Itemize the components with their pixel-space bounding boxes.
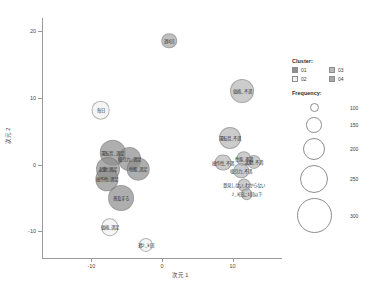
scatter-plot-area: 次元 2 次元 1 20100-10-10010 週1回価格_不満毎日運転音_不… <box>0 0 285 291</box>
frequency-size-label: 250 <box>350 176 358 182</box>
frequency-size-circle <box>310 103 319 112</box>
cluster-legend-title: Cluster: <box>292 58 373 64</box>
data-point-label: 性能_満足 <box>129 167 147 172</box>
data-point-label: 起動_満足 <box>99 166 117 171</box>
x-axis-title: 次元 1 <box>150 271 210 279</box>
data-point-label: 週1回 <box>164 38 175 43</box>
chart-legend: Cluster: 01030204 Frequency: 10015020025… <box>292 58 373 99</box>
frequency-size-label: 300 <box>350 213 358 219</box>
x-tick-mark <box>91 258 92 262</box>
data-point-label: 運転音_満足 <box>101 150 123 155</box>
data-point-label: 操作性_満足 <box>96 177 118 182</box>
frequency-legend: Frequency: 100150200250300 <box>292 90 373 96</box>
cluster-color-swatch <box>292 67 298 73</box>
cluster-color-swatch <box>292 76 298 82</box>
data-point-label: 毎日 <box>97 108 105 113</box>
cluster-color-swatch <box>329 76 335 82</box>
chart-root: 次元 2 次元 1 20100-10-10010 週1回価格_不満毎日運転音_不… <box>0 0 373 291</box>
cluster-legend-items: 01030204 <box>292 67 366 85</box>
cluster-color-swatch <box>329 67 335 73</box>
y-tick-label: 20 <box>6 28 36 34</box>
data-point-label: 操作性_不満 <box>212 160 234 165</box>
y-tick-mark <box>38 165 42 166</box>
frequency-size-circle <box>303 138 325 160</box>
data-point-label: 意見しない_わからない <box>223 182 265 187</box>
cluster-legend-item[interactable]: 04 <box>329 76 366 82</box>
frequency-size-label: 200 <box>350 146 358 152</box>
data-point-label: 2_3回に1回以下 <box>231 192 262 197</box>
x-tick-label: 0 <box>147 263 177 269</box>
y-axis-line <box>42 18 43 258</box>
cluster-legend-label: 02 <box>301 76 307 82</box>
data-point-label: 運転音_不満 <box>219 136 241 141</box>
cluster-legend-label: 04 <box>338 76 344 82</box>
y-tick-mark <box>38 231 42 232</box>
data-point-label: 吸引力_不満 <box>230 168 252 173</box>
frequency-legend-title: Frequency: <box>292 90 373 96</box>
x-tick-label: 10 <box>218 263 248 269</box>
cluster-legend-label: 01 <box>301 67 307 73</box>
x-tick-label: -10 <box>76 263 106 269</box>
cluster-legend-item[interactable]: 03 <box>329 67 366 73</box>
frequency-size-circle <box>297 198 332 233</box>
cluster-legend-label: 03 <box>338 67 344 73</box>
x-tick-mark <box>162 258 163 262</box>
y-axis-title: 次元 2 <box>4 116 12 156</box>
y-tick-mark <box>38 98 42 99</box>
data-point-label: 週2_3回 <box>138 242 154 247</box>
data-point-label: 起動_不満 <box>245 160 263 165</box>
data-point-label: 吸引力_満足 <box>118 156 140 161</box>
y-tick-label: 0 <box>6 162 36 168</box>
frequency-size-circle <box>306 117 322 133</box>
y-tick-label: -10 <box>6 228 36 234</box>
x-tick-mark <box>233 258 234 262</box>
frequency-size-label: 150 <box>350 122 358 128</box>
frequency-size-circle <box>300 165 329 194</box>
frequency-size-label: 100 <box>350 105 358 111</box>
y-tick-label: 10 <box>6 95 36 101</box>
y-tick-mark <box>38 31 42 32</box>
cluster-legend-item[interactable]: 02 <box>292 76 329 82</box>
data-point-label: 価格_満足 <box>101 225 119 230</box>
data-point-label: 価格_不満 <box>233 89 251 94</box>
cluster-legend-item[interactable]: 01 <box>292 67 329 73</box>
data-point-label: 普及する <box>113 196 129 201</box>
